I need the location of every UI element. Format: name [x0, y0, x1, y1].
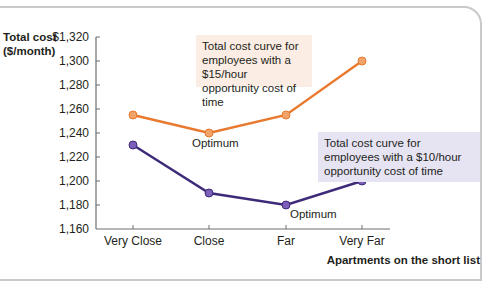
annotation-line: opportunity cost of time: [202, 81, 306, 109]
annotation-line: opportunity cost of time: [324, 164, 474, 178]
annotation-10-per-hour: Total cost curve for employees with a $1…: [318, 132, 480, 182]
annotation-line: employees with a $10/hour: [324, 150, 474, 164]
annotation-15-per-hour: Total cost curve for employees with a $1…: [196, 35, 312, 87]
optimum-label-15: Optimum: [192, 137, 239, 149]
x-tick-label: Very Far: [322, 234, 402, 248]
annotation-line: employees with a $15/hour: [202, 53, 306, 81]
x-tick-label: Very Close: [93, 234, 173, 248]
x-tick-label: Close: [169, 234, 249, 248]
annotation-line: Total cost curve for: [324, 136, 474, 150]
x-tick-label: Far: [246, 234, 326, 248]
annotation-line: Total cost curve for: [202, 39, 306, 53]
x-axis-label: Apartments on the short list: [300, 254, 480, 266]
optimum-label-10: Optimum: [290, 208, 337, 220]
